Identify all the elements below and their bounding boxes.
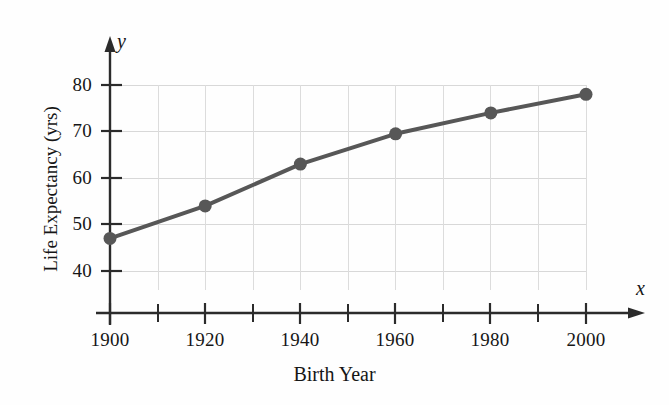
life-expectancy-line-chart: 80 70 60 50 40 1900 1920 1940 1960 1980 … xyxy=(0,0,669,405)
y-axis-arrowhead xyxy=(105,36,116,52)
x-axis-title: Birth Year xyxy=(0,363,669,386)
data-point xyxy=(199,199,212,212)
data-point xyxy=(104,232,117,245)
vertical-gridlines xyxy=(110,85,586,290)
x-tick-label-1940: 1940 xyxy=(281,329,320,351)
y-axis-title: Life Expectancy (yrs) xyxy=(40,64,62,314)
x-axis-variable-label: x xyxy=(636,277,645,300)
x-tick-label-1900: 1900 xyxy=(91,329,130,351)
data-point xyxy=(294,158,307,171)
x-axis-arrowhead xyxy=(628,308,645,319)
x-tick-label-1960: 1960 xyxy=(376,329,415,351)
x-tick-label-1920: 1920 xyxy=(186,329,225,351)
y-axis-variable-label: y xyxy=(117,30,126,53)
x-tick-label-2000: 2000 xyxy=(567,329,606,351)
data-point xyxy=(389,127,402,140)
x-tick-label-1980: 1980 xyxy=(471,329,510,351)
data-point xyxy=(580,88,593,101)
data-point xyxy=(484,106,497,119)
